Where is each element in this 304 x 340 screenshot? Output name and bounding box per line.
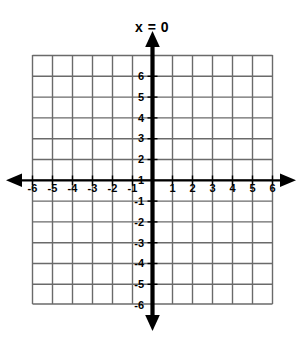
x-tick-label-4: 4	[223, 183, 243, 194]
graph-canvas	[0, 0, 304, 340]
y-tick-label-5: 5	[124, 92, 144, 103]
y-tick-label-2: 2	[124, 154, 144, 165]
y-tick-label--3: -3	[124, 238, 144, 249]
coordinate-plane-figure: x = 0	[0, 0, 304, 340]
down-arrow-icon	[145, 315, 160, 331]
x-tick-label--2: -2	[103, 183, 123, 194]
x-tick-label-6: 6	[263, 183, 283, 194]
x-tick-label--4: -4	[63, 183, 83, 194]
y-tick-label-1: 1	[124, 175, 144, 186]
x-tick-label--6: -6	[23, 183, 43, 194]
y-tick-label--2: -2	[124, 217, 144, 228]
y-tick-label--1: -1	[124, 196, 144, 207]
y-tick-label--5: -5	[124, 279, 144, 290]
y-tick-label-6: 6	[124, 71, 144, 82]
x-tick-label-1: 1	[163, 183, 183, 194]
x-tick-label--3: -3	[83, 183, 103, 194]
y-tick-label--6: -6	[124, 300, 144, 311]
y-tick-label-3: 3	[124, 133, 144, 144]
x-tick-label--5: -5	[43, 183, 63, 194]
x-tick-label-5: 5	[243, 183, 263, 194]
y-tick-label-4: 4	[124, 113, 144, 124]
y-tick-label--4: -4	[124, 258, 144, 269]
up-arrow-icon	[145, 31, 160, 47]
left-arrow-icon	[6, 174, 22, 188]
x-tick-label-3: 3	[203, 183, 223, 194]
x-tick-label-2: 2	[183, 183, 203, 194]
